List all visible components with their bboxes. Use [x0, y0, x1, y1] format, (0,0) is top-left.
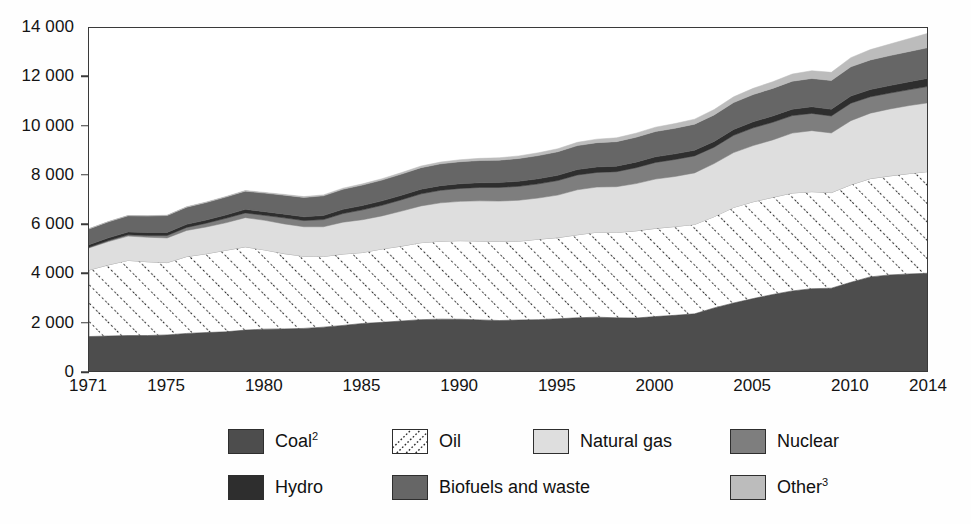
legend-swatch-nuclear [730, 429, 766, 454]
x-tick-label: 2010 [831, 376, 869, 396]
y-axis: 02 0004 0006 0008 00010 00012 00014 000 [0, 0, 88, 380]
legend-label-coal: Coal2 [275, 431, 318, 452]
x-tick-label: 1980 [245, 376, 283, 396]
chart-legend: Coal2OilNatural gasNuclear HydroBiofuels… [0, 416, 971, 516]
legend-swatch-natural-gas [533, 429, 569, 454]
legend-label-natural-gas: Natural gas [580, 431, 672, 452]
legend-item-oil[interactable]: Oil [392, 424, 461, 458]
legend-swatch-oil [392, 429, 428, 454]
oil-hatch-icon [393, 430, 427, 453]
x-axis: 1971197519801985199019952000200520102014 [0, 374, 971, 408]
area-bands [89, 33, 928, 372]
legend-item-natural-gas[interactable]: Natural gas [533, 424, 672, 458]
legend-item-coal[interactable]: Coal2 [228, 424, 318, 458]
x-tick-label: 2014 [909, 376, 947, 396]
plot-area [88, 27, 928, 372]
chart-figure: 02 0004 0006 0008 00010 00012 00014 000 … [0, 0, 971, 524]
y-tick-label: 2 000 [31, 313, 74, 333]
x-tick-label: 1990 [440, 376, 478, 396]
legend-label-hydro: Hydro [275, 477, 323, 498]
legend-item-other[interactable]: Other3 [730, 470, 828, 504]
y-tick-label: 8 000 [31, 165, 74, 185]
legend-swatch-hydro [228, 475, 264, 500]
x-tick-label: 1975 [147, 376, 185, 396]
legend-swatch-biofuels-and-waste [392, 475, 428, 500]
y-tick-label: 14 000 [21, 17, 74, 37]
legend-footnote-marker: 3 [822, 476, 828, 488]
legend-swatch-coal [228, 429, 264, 454]
legend-swatch-other [730, 475, 766, 500]
y-tick-label: 4 000 [31, 263, 74, 283]
legend-footnote-marker: 2 [312, 430, 318, 442]
legend-row-1: Coal2OilNatural gasNuclear [0, 424, 971, 458]
stacked-area-svg [89, 28, 928, 372]
x-tick-label: 2000 [636, 376, 674, 396]
y-tick-label: 10 000 [21, 116, 74, 136]
x-tick-label: 1995 [538, 376, 576, 396]
x-tick-label: 2005 [733, 376, 771, 396]
x-tick-label: 1985 [343, 376, 381, 396]
x-tick-label: 1971 [69, 376, 107, 396]
legend-row-2: HydroBiofuels and wasteOther3 [0, 470, 971, 504]
legend-item-biofuels-and-waste[interactable]: Biofuels and waste [392, 470, 590, 504]
y-tick-label: 6 000 [31, 214, 74, 234]
legend-label-other: Other3 [777, 477, 828, 498]
legend-item-hydro[interactable]: Hydro [228, 470, 323, 504]
legend-label-oil: Oil [439, 431, 461, 452]
y-tick-label: 12 000 [21, 66, 74, 86]
legend-label-biofuels-and-waste: Biofuels and waste [439, 477, 590, 498]
legend-item-nuclear[interactable]: Nuclear [730, 424, 839, 458]
legend-label-nuclear: Nuclear [777, 431, 839, 452]
